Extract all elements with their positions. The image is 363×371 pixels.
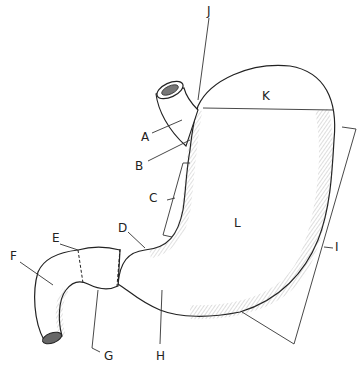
label-b: B <box>135 160 143 172</box>
label-k: K <box>262 90 270 102</box>
label-e: E <box>52 232 60 244</box>
stomach-diagram: A B C D E F G H I J K L <box>0 0 363 371</box>
label-a: A <box>141 131 149 143</box>
stomach-illustration <box>0 0 363 371</box>
label-d: D <box>118 222 127 234</box>
label-h: H <box>156 350 165 362</box>
label-g: G <box>104 350 113 362</box>
label-f: F <box>10 250 17 262</box>
label-l: L <box>234 217 241 229</box>
label-j: J <box>207 5 211 17</box>
duodenum <box>35 247 120 346</box>
label-c: C <box>149 192 157 204</box>
label-i: I <box>335 241 339 253</box>
